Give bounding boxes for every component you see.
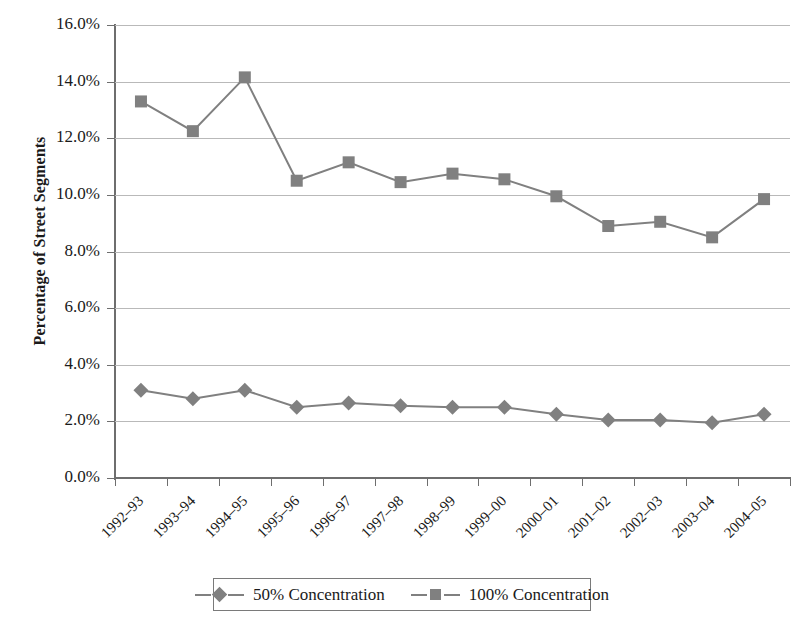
y-tick-label: 6.0% [0,297,100,317]
y-tick-label: 4.0% [0,354,100,374]
square-marker-icon [239,71,251,83]
x-tick-mark [582,478,583,486]
legend-line-icon [195,594,211,596]
x-tick-mark [738,478,739,486]
diamond-marker-icon [757,407,772,422]
diamond-marker-icon [497,400,512,415]
square-marker-icon [135,95,147,107]
y-tick-label: 12.0% [0,127,100,147]
diamond-marker-icon [212,587,228,603]
x-tick-mark [375,478,376,486]
y-tick-mark [107,308,115,309]
y-tick-mark [107,82,115,83]
legend-entry-100[interactable]: 100% Concentration [411,585,609,605]
legend-label-100: 100% Concentration [469,585,609,605]
diamond-marker-icon [653,412,668,427]
square-marker-icon [291,175,303,187]
x-tick-mark [686,478,687,486]
legend-line-icon [444,594,460,596]
square-marker-icon [758,193,770,205]
x-tick-mark [167,478,168,486]
square-marker-icon [550,190,562,202]
y-tick-mark [107,195,115,196]
plot-area [115,25,790,478]
y-tick-label: 10.0% [0,184,100,204]
diamond-marker-icon [133,383,148,398]
x-tick-mark [478,478,479,486]
square-marker-icon [395,176,407,188]
x-tick-mark [530,478,531,486]
diamond-marker-icon [601,412,616,427]
y-tick-mark [107,365,115,366]
x-tick-mark [323,478,324,486]
square-marker-icon [602,220,614,232]
y-tick-mark [107,25,115,26]
legend-label-50: 50% Concentration [253,585,385,605]
y-tick-label: 16.0% [0,14,100,34]
x-tick-mark [115,478,116,486]
x-tick-mark [219,478,220,486]
legend-entry-50[interactable]: 50% Concentration [195,585,385,605]
y-tick-mark [107,138,115,139]
diamond-marker-icon [549,407,564,422]
legend-line-icon [411,594,427,596]
y-tick-mark [107,252,115,253]
diamond-marker-icon [185,391,200,406]
y-tick-label: 14.0% [0,71,100,91]
y-tick-label: 0.0% [0,467,100,487]
diamond-marker-icon [289,400,304,415]
square-marker-icon [343,156,355,168]
x-tick-mark [790,478,791,486]
square-marker-icon [498,173,510,185]
diamond-marker-icon [445,400,460,415]
square-marker-icon [706,231,718,243]
y-tick-label: 2.0% [0,410,100,430]
square-marker-icon [430,589,441,600]
diamond-marker-icon [705,415,720,430]
square-marker-icon [187,125,199,137]
legend-line-icon [228,594,244,596]
y-tick-mark [107,421,115,422]
diamond-marker-icon [237,383,252,398]
chart-container: Percentage of Street Segments 0.0%2.0%4.… [0,0,806,622]
square-marker-icon [447,168,459,180]
chart-legend: 50% Concentration 100% Concentration [213,578,591,611]
x-tick-mark [271,478,272,486]
x-tick-mark [634,478,635,486]
diamond-marker-icon [341,395,356,410]
series-line-2 [141,77,764,237]
diamond-marker-icon [393,398,408,413]
series-layer [115,25,790,478]
x-tick-mark [427,478,428,486]
y-tick-label: 8.0% [0,241,100,261]
y-tick-mark [107,478,115,479]
square-marker-icon [654,216,666,228]
